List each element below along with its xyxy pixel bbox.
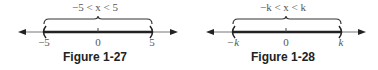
tick-label-zero: 0 (276, 36, 296, 48)
tick-label-left: −k (223, 36, 243, 48)
figure-1-27: −5 < x < 5 −5 0 5 Figure 1-27 (0, 0, 190, 70)
right-arrow-icon (170, 29, 178, 35)
figure-caption: Figure 1-28 (188, 50, 378, 64)
tick-label-right: k (331, 36, 351, 48)
tick-label-left: −5 (34, 36, 54, 48)
figure-1-28: −k < x < k −k 0 k Figure 1-28 (188, 0, 378, 70)
brace-icon (233, 16, 341, 24)
left-arrow-icon (18, 29, 26, 35)
left-arrow-icon (206, 29, 214, 35)
right-arrow-icon (358, 29, 366, 35)
tick-label-right: 5 (142, 36, 162, 48)
brace-icon (44, 16, 152, 24)
figure-caption: Figure 1-27 (0, 50, 190, 64)
tick-label-zero: 0 (88, 36, 108, 48)
